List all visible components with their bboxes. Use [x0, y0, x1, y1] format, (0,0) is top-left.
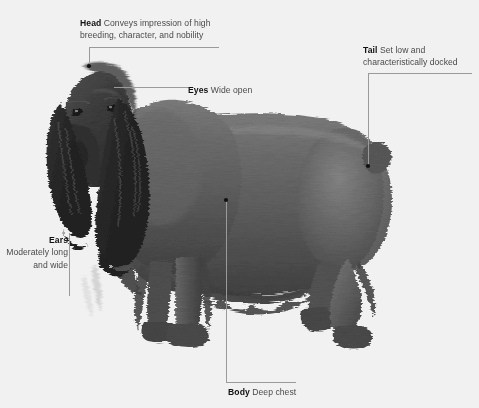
- callout-eyes-desc: Wide open: [211, 85, 252, 95]
- figure-canvas: Head Conveys impression of high breeding…: [0, 0, 479, 408]
- callout-body: Body Deep chest: [228, 386, 296, 398]
- callout-eyes: Eyes Wide open: [188, 84, 252, 96]
- callout-body-desc: Deep chest: [252, 387, 296, 397]
- callout-ears: Ears Moderately long and wide: [6, 234, 68, 271]
- callout-body-term: Body: [228, 387, 250, 397]
- callout-ears-term: Ears: [49, 235, 68, 245]
- callout-tail-desc: Set low and characteristically docked: [363, 45, 458, 67]
- callout-tail: Tail Set low and characteristically dock…: [363, 44, 473, 68]
- callout-head: Head Conveys impression of high breeding…: [80, 17, 240, 41]
- callout-eyes-term: Eyes: [188, 85, 208, 95]
- callout-head-term: Head: [80, 18, 101, 28]
- callout-tail-term: Tail: [363, 45, 378, 55]
- callout-ears-desc: Moderately long and wide: [6, 247, 68, 269]
